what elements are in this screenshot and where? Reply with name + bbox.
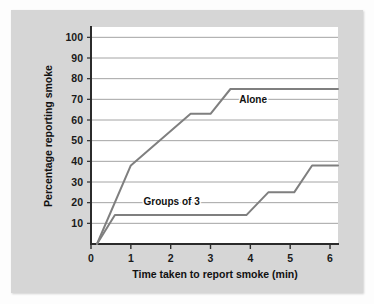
x-axis-tick-labels: 0123456: [88, 252, 333, 264]
y-tick-label-10: 10: [71, 217, 83, 229]
y-tick-label-40: 40: [71, 155, 83, 167]
chart-plot-wrapper: 102030405060708090100 0123456 AloneAlone…: [0, 0, 374, 304]
y-axis-tick-labels: 102030405060708090100: [65, 31, 91, 229]
y-tick-label-90: 90: [71, 52, 83, 64]
y-tick-label-70: 70: [71, 93, 83, 105]
y-axis-title: Percentage reporting smoke: [42, 65, 54, 207]
y-tick-label-80: 80: [71, 72, 83, 84]
y-tick-label-30: 30: [71, 176, 83, 188]
y-tick-label-20: 20: [71, 196, 83, 208]
x-tick-label-6: 6: [327, 252, 333, 264]
x-tick-label-4: 4: [247, 252, 253, 264]
x-axis-title: Time taken to report smoke (min): [132, 268, 298, 280]
y-tick-label-100: 100: [65, 31, 83, 43]
x-tick-label-1: 1: [128, 252, 134, 264]
x-tick-label-3: 3: [208, 252, 214, 264]
plot-panel: [91, 27, 338, 244]
series-label-alone: Alone: [239, 94, 267, 105]
y-tick-label-50: 50: [71, 134, 83, 146]
x-tick-label-5: 5: [287, 252, 293, 264]
series-label-groups-of-3: Groups of 3: [144, 196, 201, 207]
x-tick-label-0: 0: [88, 252, 94, 264]
y-tick-label-60: 60: [71, 114, 83, 126]
x-tick-label-2: 2: [168, 252, 174, 264]
figure-root: 102030405060708090100 0123456 AloneAlone…: [0, 0, 374, 304]
line-chart: 102030405060708090100 0123456 AloneAlone…: [0, 0, 374, 304]
